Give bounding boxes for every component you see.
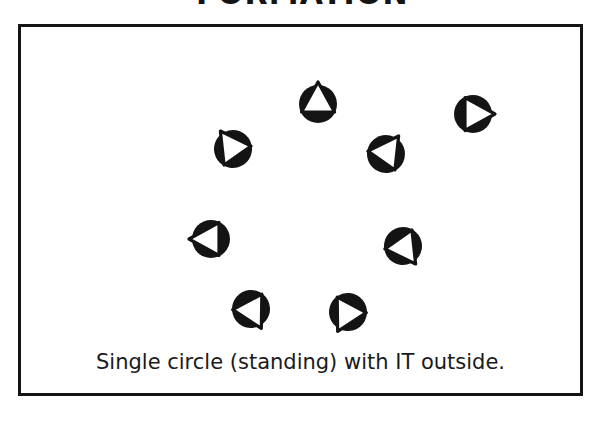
formation-panel: Single circle (standing) with IT outside…	[18, 24, 583, 396]
diagram-title-clip: FORMATION	[0, 0, 605, 11]
formation-field	[21, 27, 580, 393]
formation-caption: Single circle (standing) with IT outside…	[21, 349, 580, 375]
person-marker	[310, 274, 386, 350]
person-marker	[194, 110, 272, 188]
person-marker	[364, 207, 442, 285]
person-marker	[213, 271, 289, 347]
page-title: FORMATION	[0, 0, 605, 11]
person-marker	[290, 76, 346, 132]
person-marker	[445, 86, 501, 142]
person-marker	[347, 115, 425, 193]
person-marker	[183, 211, 239, 267]
